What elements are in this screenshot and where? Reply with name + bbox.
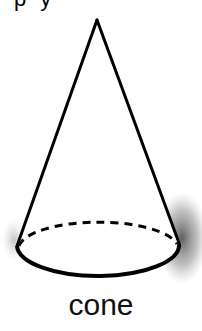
figure-caption: cone	[0, 288, 202, 322]
cone-body	[17, 20, 179, 275]
cone-diagram	[0, 0, 202, 331]
